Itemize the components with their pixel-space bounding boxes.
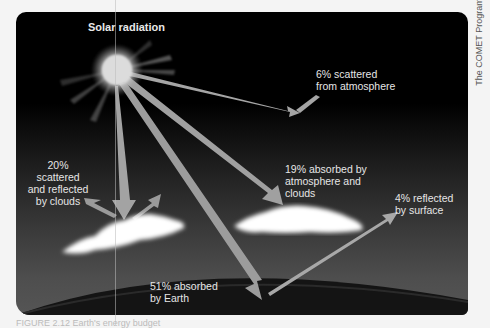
arrow-absorbed-atmosphere (124, 76, 283, 205)
figure-caption: FIGURE 2.12 Earth's energy budget (16, 318, 160, 328)
cloud-right (234, 206, 363, 233)
credit-text: The COMET Program (474, 0, 484, 86)
label-reflected-surface: 4% reflected by surface (395, 192, 453, 216)
diagram-panel: Solar radiation 6% scattered from atmosp… (16, 12, 468, 315)
arrow-scattered-atmosphere (125, 71, 300, 117)
label-absorbed-earth: 51% absorbed by Earth (150, 280, 218, 304)
label-scattered-atmosphere: 6% scattered from atmosphere (316, 68, 395, 92)
arrow-absorbed-earth (119, 82, 262, 300)
diagram-title: Solar radiation (88, 21, 165, 33)
cloud-left (62, 214, 184, 254)
label-clouds-scattered: 20% scattered and reflected by clouds (26, 159, 90, 207)
page-divider-line (115, 0, 116, 325)
earth-surface (16, 278, 468, 315)
label-absorbed-atmosphere: 19% absorbed by atmosphere and clouds (285, 163, 367, 199)
